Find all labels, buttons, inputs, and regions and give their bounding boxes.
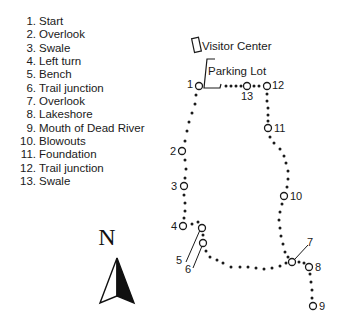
stop-label-12: 12 [272, 79, 284, 91]
stop-label-6: 6 [185, 263, 191, 275]
stop-marker-4 [180, 223, 187, 230]
stop-label-10: 10 [290, 190, 302, 202]
stop-label-5: 5 [176, 254, 182, 266]
stop-marker-7 [289, 259, 296, 266]
stop-marker-13 [244, 83, 251, 90]
stop-label-11: 11 [274, 122, 285, 134]
stop-label-3: 3 [171, 180, 177, 192]
stop-label-1: 1 [187, 78, 193, 90]
stop-label-4: 4 [171, 220, 177, 232]
stop-label-2: 2 [170, 145, 176, 157]
stop-marker-6 [200, 240, 207, 247]
stop-marker-12 [264, 83, 271, 90]
stop-marker-9 [310, 303, 317, 310]
stop-label-9: 9 [319, 300, 325, 312]
stop-marker-8 [306, 264, 313, 271]
stop-marker-2 [179, 148, 186, 155]
stop-marker-10 [281, 193, 288, 200]
north-label: N [98, 224, 115, 250]
stop-marker-3 [181, 183, 188, 190]
stop-label-7: 7 [307, 236, 313, 248]
visitor-center-icon [192, 37, 202, 52]
stop-marker-1 [196, 83, 203, 90]
north-arrow-icon: N [98, 224, 134, 303]
stop-marker-5 [199, 225, 206, 232]
stop-marker-11 [265, 125, 272, 132]
parking-lot-label: Parking Lot [208, 65, 267, 77]
leader-line-6 [193, 246, 202, 268]
visitor-center-label: Visitor Center [202, 40, 272, 52]
stop-label-8: 8 [315, 261, 321, 273]
stop-label-13: 13 [241, 90, 253, 102]
trail-map: Visitor Center Parking Lot [0, 0, 343, 326]
